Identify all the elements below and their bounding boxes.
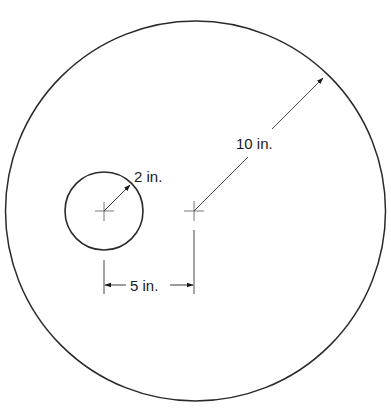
circle-with-hole-diagram: 10 in. 2 in. 5 in. <box>0 0 391 414</box>
large-radius-line-upper <box>272 78 323 129</box>
center-distance-label: 5 in. <box>130 277 158 294</box>
large-radius-line-lower <box>194 157 248 211</box>
small-radius-line <box>104 185 130 211</box>
small-circle-center-mark-icon <box>95 202 114 221</box>
large-radius-label: 10 in. <box>236 135 273 152</box>
small-radius-label: 2 in. <box>134 168 162 185</box>
